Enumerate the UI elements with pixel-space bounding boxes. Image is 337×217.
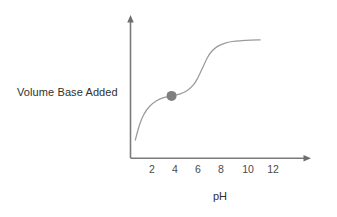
x-axis-arrow-icon [304,155,312,162]
y-axis-title: Volume Base Added [17,86,118,98]
titration-chart-figure: 2 4 6 8 10 12 Volume Base Added pH [0,0,337,217]
chart-plot-area: 2 4 6 8 10 12 [0,0,337,217]
x-tick-label-5: 10 [242,163,254,175]
x-tick-label-1: 2 [149,163,155,175]
x-tick-label-4: 8 [218,163,224,175]
titration-curve-line [135,40,260,140]
x-tick-label-3: 6 [195,163,201,175]
x-tick-label-6: 12 [267,163,279,175]
x-tick-label-2: 4 [172,163,178,175]
x-axis-title: pH [190,190,250,202]
half-equivalence-point-marker [167,91,177,101]
y-axis-arrow-icon [127,15,134,23]
